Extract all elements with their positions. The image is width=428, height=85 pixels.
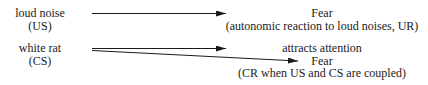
stimulus-cs-name: white rat <box>19 42 61 54</box>
stimulus-us-name: loud noise <box>15 7 65 19</box>
response-ur-title: Fear <box>311 7 332 19</box>
response-cr-note: (CR when US and CS are coupled) <box>238 67 406 79</box>
response-ur-note: (autonomic reaction to loud noises, UR) <box>226 20 419 32</box>
response-attention-title: attracts attention <box>282 42 362 54</box>
stimulus-cs-type: (CS) <box>29 55 52 67</box>
arrow-cs-to-cr <box>92 51 298 62</box>
stimulus-us-type: (US) <box>28 20 51 32</box>
